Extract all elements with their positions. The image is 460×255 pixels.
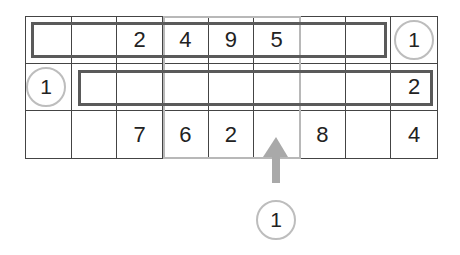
cell-r1c2[interactable] [72, 17, 118, 64]
cell-r2c8[interactable] [346, 64, 392, 111]
cell-r2c5[interactable] [209, 64, 255, 111]
cell-r3c4[interactable]: 6 [163, 111, 209, 158]
cell-r2c7[interactable] [300, 64, 346, 111]
clue-row2-left: 1 [26, 67, 66, 107]
cell-r3c7[interactable]: 8 [300, 111, 346, 158]
cell-r3c2[interactable] [72, 111, 118, 158]
cell-r1c3[interactable]: 2 [117, 17, 163, 64]
cell-r3c9[interactable]: 4 [391, 111, 437, 158]
cell-r3c3[interactable]: 7 [117, 111, 163, 158]
cell-r2c3[interactable] [117, 64, 163, 111]
clue-column-bottom: 1 [256, 200, 296, 240]
cell-r1c7[interactable] [300, 17, 346, 64]
clue-row1-right: 1 [394, 20, 434, 60]
cell-r1c6[interactable]: 5 [254, 17, 300, 64]
cell-r3c8[interactable] [346, 111, 392, 158]
cell-r3c1[interactable] [26, 111, 72, 158]
cell-r2c4[interactable] [163, 64, 209, 111]
arrow-up-icon [263, 137, 289, 183]
puzzle-grid: 2 4 9 5 2 7 6 2 8 4 [25, 16, 438, 159]
cell-r2c9[interactable]: 2 [391, 64, 437, 111]
cell-r1c5[interactable]: 9 [209, 17, 255, 64]
cell-r1c1[interactable] [26, 17, 72, 64]
cell-r2c2[interactable] [72, 64, 118, 111]
cell-r2c6[interactable] [254, 64, 300, 111]
cell-r1c8[interactable] [346, 17, 392, 64]
cell-r1c4[interactable]: 4 [163, 17, 209, 64]
cell-r3c5[interactable]: 2 [209, 111, 255, 158]
